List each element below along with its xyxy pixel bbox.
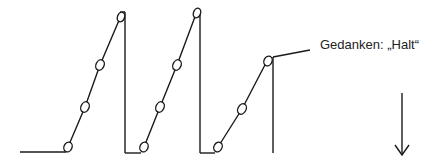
sawtooth-diagram: [0, 0, 439, 164]
ramp-2: [138, 7, 215, 153]
ramp-3: [212, 55, 274, 154]
ramp-1: [62, 11, 141, 153]
step-circle: [79, 100, 91, 113]
step-circle: [236, 102, 248, 116]
step-circle: [138, 141, 149, 153]
annotation-label: Gedanken: „Halt“: [320, 37, 419, 52]
down-arrow-icon: [395, 93, 409, 155]
step-circle: [154, 100, 166, 113]
step-circle: [171, 58, 183, 71]
annotation-leader-line: [273, 50, 310, 57]
step-circle: [212, 141, 224, 154]
step-circle: [94, 58, 106, 71]
